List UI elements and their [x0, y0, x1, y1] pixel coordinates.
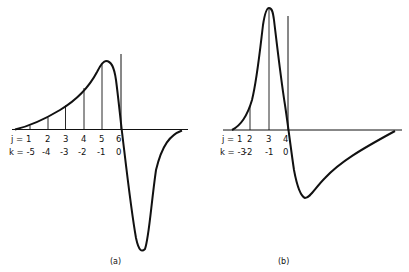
- panel-b-k-label: -1: [265, 147, 273, 157]
- panel-a-k-label: -3: [60, 147, 68, 157]
- panel-b-j-labels: j = 1 2 3 4: [221, 134, 288, 144]
- panel-a-j-label: j = 1: [10, 134, 31, 144]
- panel-a-j-label: 2: [45, 134, 50, 144]
- panel-b-caption: (b): [278, 257, 289, 266]
- panel-a-k-label: -1: [97, 147, 105, 157]
- panel-a-j-label: 4: [81, 134, 86, 144]
- panel-a-j-label: 5: [99, 134, 104, 144]
- panel-b-k-label: -2: [244, 147, 252, 157]
- panel-a-j-label: 3: [63, 134, 68, 144]
- panel-a-k-labels: k = -5 -4 -3 -2 -1 0: [9, 147, 121, 157]
- panel-b-j-label: 4: [283, 134, 288, 144]
- panel-b-sample-lines: [250, 9, 269, 130]
- panel-b-k-labels: k = -3 -2 -1 0: [220, 147, 288, 157]
- panel-b-j-label: 3: [266, 134, 271, 144]
- panel-a-k-label: 0: [116, 147, 121, 157]
- panel-a-j-labels: j = 1 2 3 4 5 6: [10, 134, 121, 144]
- panel-a-k-label: k = -5: [9, 147, 35, 157]
- panel-a-j-label: 6: [116, 134, 121, 144]
- panel-a-k-label: -2: [78, 147, 86, 157]
- panel-a: j = 1 2 3 4 5 6 k = -5 -4 -3 -2 -1 0 (a): [9, 54, 188, 266]
- panel-b-j-label: 2: [247, 134, 252, 144]
- panel-b-k-label: 0: [283, 147, 288, 157]
- panel-b: j = 1 2 3 4 k = -3 -2 -1 0 (b): [220, 8, 402, 266]
- panel-b-j-label: j = 1: [221, 134, 242, 144]
- figure-canvas: j = 1 2 3 4 5 6 k = -5 -4 -3 -2 -1 0 (a)…: [0, 0, 409, 272]
- panel-b-curve: [232, 8, 395, 198]
- panel-b-k-label: k = -3: [220, 147, 246, 157]
- panel-a-caption: (a): [110, 257, 121, 266]
- panel-a-k-label: -4: [42, 147, 50, 157]
